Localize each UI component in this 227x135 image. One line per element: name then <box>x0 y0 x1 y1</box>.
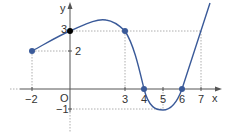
point-4-0 <box>141 86 147 92</box>
x-tick-5: 5 <box>160 93 166 105</box>
x-tick-7: 7 <box>198 93 204 105</box>
function-graph: y x O −2 3 4 5 6 7 3 2 −1 <box>0 0 227 135</box>
x-axis-label: x <box>212 92 218 104</box>
point-neg2-2 <box>29 48 35 54</box>
point-3-3 <box>122 28 128 34</box>
x-tick-neg2: −2 <box>25 93 38 105</box>
x-tick-6: 6 <box>179 93 185 105</box>
y-tick-neg1: −1 <box>56 103 69 115</box>
x-arrow-icon <box>215 87 222 92</box>
point-0-3 <box>67 28 73 34</box>
axes <box>20 5 218 112</box>
guide-lines <box>10 31 201 132</box>
y-arrow-icon <box>68 2 73 9</box>
y-tick-2: 2 <box>75 45 81 57</box>
x-tick-4: 4 <box>141 93 147 105</box>
y-tick-3: 3 <box>61 23 67 35</box>
x-tick-3: 3 <box>122 93 128 105</box>
point-6-0 <box>179 86 185 92</box>
y-axis-label: y <box>60 2 66 14</box>
